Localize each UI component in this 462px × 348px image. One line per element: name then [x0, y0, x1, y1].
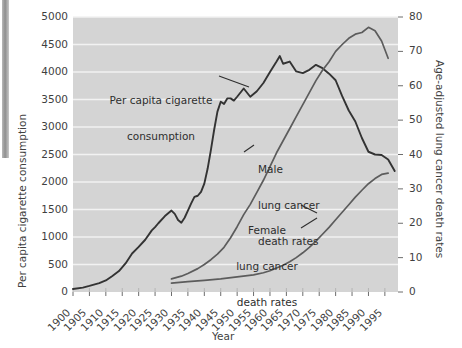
- y-axis-right-title: Age-adjusted lung cancer death rates: [434, 60, 446, 258]
- y-axis-right-tick-label: 30: [409, 182, 422, 194]
- x-axis-title: Year: [212, 330, 234, 342]
- y-axis-right-tick-label: 70: [409, 44, 422, 56]
- annotation-male-line1: Male: [258, 163, 320, 175]
- y-axis-right-tick-label: 0: [409, 285, 416, 297]
- y-axis-right-tick-label: 10: [409, 251, 422, 263]
- annotation-female: Female lung cancer death rates: [232, 200, 302, 332]
- y-axis-right-tick-label: 40: [409, 148, 422, 160]
- annotation-cigarette-line2: consumption: [103, 130, 219, 142]
- y-axis-left-tick-label: 2000: [26, 175, 68, 187]
- y-axis-left-tick-label: 0: [26, 285, 68, 297]
- annotation-cigarette: Per capita cigarette consumption: [103, 70, 219, 166]
- y-axis-left-tick-label: 5000: [26, 10, 68, 22]
- chart-plot-area: [0, 0, 462, 348]
- annotation-female-line3: death rates: [232, 296, 302, 308]
- y-axis-left-tick-label: 3500: [26, 93, 68, 105]
- y-axis-left-tick-label: 4500: [26, 38, 68, 50]
- y-axis-right-tick-label: 50: [409, 113, 422, 125]
- y-axis-left-title: Per capita cigarette consumption: [16, 114, 28, 288]
- annotation-female-line1: Female: [232, 224, 302, 236]
- chart-figure: 0500100015002000250030003500400045005000…: [0, 0, 462, 348]
- y-axis-left-tick-label: 3000: [26, 120, 68, 132]
- y-axis-left-tick-label: 4000: [26, 65, 68, 77]
- y-axis-left-tick-label: 2500: [26, 148, 68, 160]
- y-axis-right-tick-label: 80: [409, 10, 422, 22]
- y-axis-left-tick-label: 1000: [26, 230, 68, 242]
- y-axis-right-tick-label: 20: [409, 216, 422, 228]
- annotation-cigarette-line1: Per capita cigarette: [103, 94, 219, 106]
- y-axis-left-tick-label: 500: [26, 258, 68, 270]
- y-axis-right-tick-label: 60: [409, 79, 422, 91]
- annotation-female-line2: lung cancer: [232, 260, 302, 272]
- y-axis-left-tick-label: 1500: [26, 203, 68, 215]
